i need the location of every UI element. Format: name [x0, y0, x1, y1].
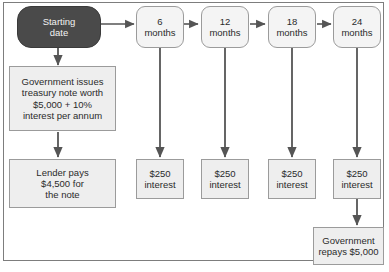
- node-government-repays-label: Government repays $5,000: [316, 235, 380, 257]
- node-interest-24-months[interactable]: $250 interest: [333, 159, 381, 199]
- node-starting-date[interactable]: Starting date: [17, 6, 101, 48]
- node-interest-12-months[interactable]: $250 interest: [201, 159, 249, 199]
- node-6-months-label: 6 months: [142, 16, 177, 38]
- node-lender-pays[interactable]: Lender pays $4,500 for the note: [9, 159, 116, 208]
- diagram-canvas: Starting date 6 months 12 months 18 mont…: [0, 0, 389, 272]
- node-government-repays[interactable]: Government repays $5,000: [313, 227, 384, 265]
- node-interest-6-months[interactable]: $250 interest: [136, 159, 184, 199]
- node-18-months[interactable]: 18 months: [268, 6, 316, 48]
- node-24-months-label: 24 months: [339, 16, 374, 38]
- node-interest-6-months-label: $250 interest: [142, 168, 177, 190]
- node-6-months[interactable]: 6 months: [136, 6, 184, 48]
- node-interest-12-months-label: $250 interest: [207, 168, 242, 190]
- node-lender-pays-label: Lender pays $4,500 for the note: [34, 167, 90, 201]
- node-18-months-label: 18 months: [274, 16, 309, 38]
- node-government-issues[interactable]: Government issues treasury note worth $5…: [9, 66, 116, 131]
- node-interest-18-months[interactable]: $250 interest: [268, 159, 316, 199]
- node-12-months[interactable]: 12 months: [201, 6, 249, 48]
- node-starting-date-label: Starting date: [41, 16, 78, 38]
- node-12-months-label: 12 months: [207, 16, 242, 38]
- node-24-months[interactable]: 24 months: [333, 6, 381, 48]
- node-government-issues-label: Government issues treasury note worth $5…: [20, 76, 106, 121]
- node-interest-18-months-label: $250 interest: [274, 168, 309, 190]
- node-interest-24-months-label: $250 interest: [339, 168, 374, 190]
